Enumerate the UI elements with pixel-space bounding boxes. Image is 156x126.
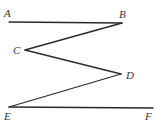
segments-group: [9, 22, 153, 108]
geometry-diagram: A B C D E F: [0, 0, 156, 126]
segment-cd: [25, 50, 121, 74]
point-label-a: A: [3, 7, 11, 19]
point-label-e: E: [3, 110, 11, 122]
segment-ef: [9, 107, 153, 108]
point-label-f: F: [144, 110, 152, 122]
segment-de: [9, 74, 121, 107]
point-label-c: C: [13, 44, 21, 56]
point-label-d: D: [125, 69, 134, 81]
point-label-b: B: [119, 8, 126, 20]
labels-group: A B C D E F: [3, 7, 152, 122]
segment-bc: [25, 23, 122, 50]
segment-ab: [9, 22, 122, 23]
